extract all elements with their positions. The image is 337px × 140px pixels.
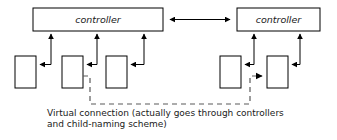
- node-right-2-box: [267, 56, 288, 88]
- caption-line-1: Virtual connection (actually goes throug…: [47, 108, 284, 119]
- controller-right-label: controller: [256, 14, 303, 25]
- controller-right: controller: [237, 8, 320, 31]
- caption-line-2: and child-naming scheme): [47, 119, 284, 130]
- node-right-1-box: [220, 56, 241, 88]
- controller-left-label: controller: [75, 14, 122, 25]
- network-topology-diagram: controller controller Virtual: [0, 0, 337, 140]
- downlink-left-3-arrow: [131, 63, 144, 65]
- node-left-2-box: [62, 56, 83, 88]
- downlink-left-1-arrow: [40, 63, 51, 65]
- controller-left: controller: [33, 8, 163, 31]
- downlink-right-1-arrow: [245, 63, 254, 65]
- node-left-1-box: [15, 56, 36, 88]
- node-left-3-box: [106, 56, 127, 88]
- downlink-left-2-arrow: [87, 63, 97, 65]
- virtual-connection-caption: Virtual connection (actually goes throug…: [47, 108, 284, 130]
- downlink-right-2-arrow: [292, 63, 300, 65]
